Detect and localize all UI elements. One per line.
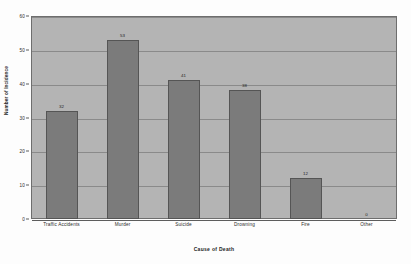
bar-slot: 53 <box>92 16 153 219</box>
bar-chart: Number of Incidence 6050403020100 325341… <box>0 0 411 264</box>
x-tick-label: Other <box>360 222 372 227</box>
x-tick-label: Fire <box>301 222 310 227</box>
bar-fire[interactable] <box>290 178 322 219</box>
bar-slot: 12 <box>275 16 336 219</box>
y-tick-label: 20 <box>19 149 25 154</box>
bar-value-label: 32 <box>59 104 64 109</box>
bar-value-label: 38 <box>242 83 247 88</box>
bar-drowning[interactable] <box>229 90 261 219</box>
y-tick-mark <box>26 83 29 84</box>
y-tick-label: 30 <box>19 115 25 120</box>
x-tick-label: Drowning <box>234 222 255 227</box>
y-tick-mark <box>26 16 29 17</box>
bar-slot: 41 <box>153 16 214 219</box>
y-tick-mark <box>26 49 29 50</box>
bar-value-label: 0 <box>365 212 368 217</box>
y-tick-mark <box>26 117 29 118</box>
y-tick-label: 40 <box>19 81 25 86</box>
y-tick-mark <box>26 219 29 220</box>
bar-slot: 32 <box>31 16 92 219</box>
bar-value-label: 12 <box>303 171 308 176</box>
y-axis: 6050403020100 <box>0 16 29 219</box>
y-tick-label: 50 <box>19 47 25 52</box>
bar-value-label: 53 <box>120 33 125 38</box>
bar-slot: 38 <box>214 16 275 219</box>
bar-traffic-accidents[interactable] <box>46 111 78 219</box>
x-tick-label: Murder <box>115 222 131 227</box>
x-tick-label: Suicide <box>175 222 191 227</box>
bar-value-label: 41 <box>181 73 186 78</box>
y-tick-label: 0 <box>22 217 25 222</box>
x-tick-label: Traffic Accidents <box>43 222 80 227</box>
x-axis-title: Cause of Death <box>31 246 397 252</box>
gridline <box>32 220 396 221</box>
y-tick-mark <box>26 151 29 152</box>
bar-suicide[interactable] <box>168 80 200 219</box>
y-tick-label: 10 <box>19 183 25 188</box>
bar-murder[interactable] <box>107 40 139 219</box>
bar-slot: 0 <box>336 16 397 219</box>
x-axis: Traffic AccidentsMurderSuicideDrowningFi… <box>31 222 397 234</box>
bars-layer: 32534138120 <box>31 16 397 219</box>
y-tick-mark <box>26 185 29 186</box>
y-tick-label: 60 <box>19 14 25 19</box>
